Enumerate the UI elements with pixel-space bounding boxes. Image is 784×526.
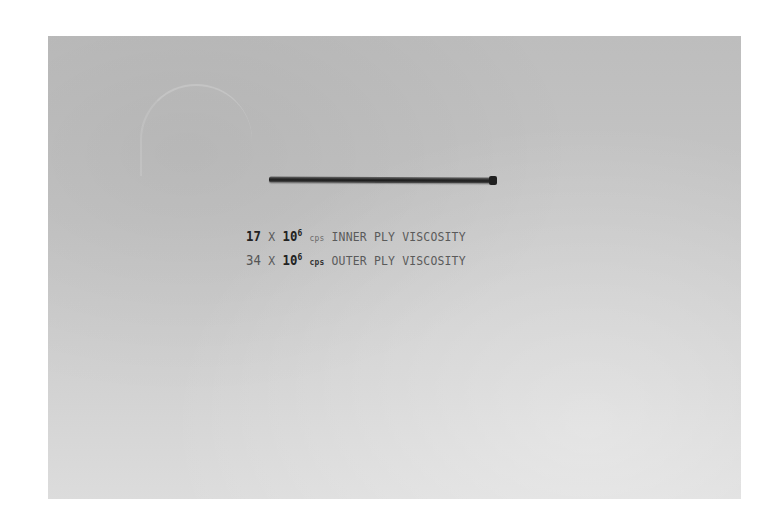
inner-times: X bbox=[268, 229, 275, 244]
caption-inner-ply: 17 X 106 cps INNER PLY VISCOSITY bbox=[246, 228, 563, 244]
outer-coefficient: 34 bbox=[246, 252, 261, 268]
caption-outer-ply: 34 X 106 cps OUTER PLY VISCOSITY bbox=[246, 252, 563, 268]
outer-label: OUTER PLY VISCOSITY bbox=[332, 253, 466, 268]
outer-exponent: 6 bbox=[298, 252, 303, 262]
rod-specimen bbox=[269, 176, 496, 183]
rod-specimen-end bbox=[489, 176, 497, 185]
inner-base: 10 bbox=[282, 228, 297, 244]
outer-base: 10 bbox=[282, 252, 297, 268]
outer-unit: cps bbox=[310, 257, 325, 267]
inner-exponent: 6 bbox=[298, 228, 303, 238]
inner-unit: cps bbox=[310, 233, 325, 243]
photograph: 17 X 106 cps INNER PLY VISCOSITY 34 X 10… bbox=[48, 36, 741, 499]
background-reflection bbox=[140, 84, 252, 176]
inner-coefficient: 17 bbox=[246, 228, 261, 244]
inner-label: INNER PLY VISCOSITY bbox=[332, 229, 466, 244]
outer-times: X bbox=[268, 253, 275, 268]
